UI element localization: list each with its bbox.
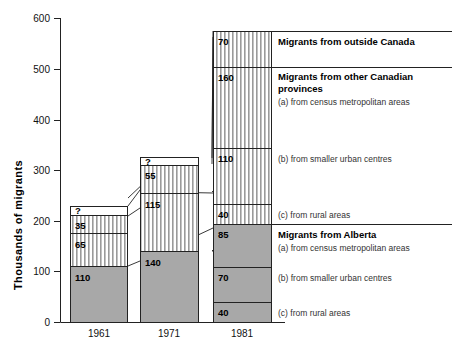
segment-label-1981-70: 70	[218, 272, 229, 283]
legend-head-alberta: Migrants from Alberta	[278, 229, 377, 240]
y-tick-200: 200	[33, 216, 50, 227]
segment-label-1981-160: 160	[218, 72, 234, 83]
legend-head-other-provinces-line2: provinces	[278, 83, 323, 94]
x-label-1961: 1961	[88, 328, 111, 339]
legend-sub-other-provinces-cma: (a) from census metropolitan areas	[278, 97, 410, 107]
chart-svg: 600 500 400 300 200 100 0 Thousands of m…	[0, 0, 460, 352]
x-label-1981: 1981	[231, 328, 254, 339]
x-label-1971: 1971	[158, 328, 181, 339]
segment-label-1971-140: 140	[145, 257, 161, 268]
segment-label-1961-unknown: ?	[75, 205, 81, 216]
legend-head-other-provinces-line1: Migrants from other Canadian	[278, 71, 413, 82]
y-axis-title: Thousands of migrants	[12, 160, 24, 290]
y-tick-400: 400	[33, 115, 50, 126]
segment-label-1971-unknown: ?	[145, 156, 151, 167]
y-tick-500: 500	[33, 64, 50, 75]
legend-sub-alberta-smaller-urban: (b) from smaller urban centres	[278, 273, 392, 283]
y-tick-300: 300	[33, 165, 50, 176]
bar-group-1981: 40 70 85 40 110 160 70 1981	[214, 32, 272, 340]
migration-stacked-bar-chart: 600 500 400 300 200 100 0 Thousands of m…	[0, 0, 460, 352]
legend: Migrants from outside Canada Migrants fr…	[272, 32, 452, 319]
y-axis	[54, 18, 61, 323]
segment-label-1971-55: 55	[145, 170, 156, 181]
legend-sub-alberta-rural: (c) from rural areas	[278, 308, 350, 318]
y-tick-100: 100	[33, 266, 50, 277]
y-tick-0: 0	[44, 317, 50, 328]
bar-group-1971: 140 115 55 ? 1971	[141, 156, 199, 339]
segment-label-1981-85: 85	[218, 229, 229, 240]
segment-label-1971-115: 115	[145, 199, 161, 210]
bar-group-1961: 110 65 35 ? 1961	[71, 205, 128, 339]
y-tick-600: 600	[33, 13, 50, 24]
segment-label-1981-40-hatch: 40	[218, 209, 229, 220]
segment-label-1981-70-top: 70	[218, 36, 229, 47]
legend-sub-other-provinces-rural: (c) from rural areas	[278, 210, 350, 220]
legend-sub-other-provinces-smaller-urban: (b) from smaller urban centres	[278, 154, 392, 164]
segment-label-1981-110: 110	[218, 153, 233, 164]
segment-label-1961-35: 35	[75, 220, 86, 231]
segment-label-1981-40-gray: 40	[218, 307, 229, 318]
legend-head-outside-canada: Migrants from outside Canada	[278, 36, 415, 47]
segment-label-1961-110: 110	[75, 272, 90, 283]
segment-label-1961-65: 65	[75, 239, 86, 250]
legend-sub-alberta-cma: (a) from census metropolitan areas	[278, 243, 410, 253]
